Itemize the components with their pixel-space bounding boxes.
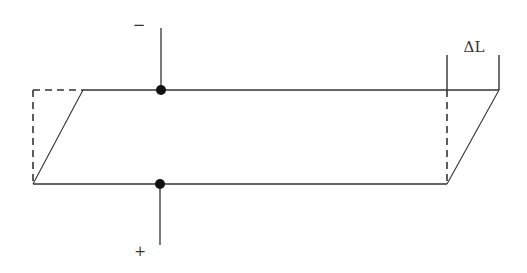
displacement-dimension — [447, 55, 499, 90]
top-contact-dot — [156, 85, 166, 95]
deformed-plate — [33, 90, 499, 184]
piezo-shear-diagram: − + ΔL — [0, 0, 527, 273]
bottom-contact-dot — [155, 179, 165, 189]
original-plate-outline — [33, 90, 447, 184]
left-slanted-edge — [33, 90, 83, 184]
right-slanted-edge — [447, 90, 499, 184]
positive-terminal-label: + — [134, 243, 146, 259]
displacement-label: ΔL — [464, 38, 485, 56]
negative-terminal-label: − — [133, 16, 146, 34]
diagram-canvas: − + ΔL — [0, 0, 527, 273]
electrode-leads — [160, 28, 161, 245]
